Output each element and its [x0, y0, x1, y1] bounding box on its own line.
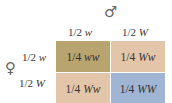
column-header-1: 1/2 w — [68, 26, 92, 38]
column-header-2: 1/2 W — [122, 26, 148, 38]
male-symbol: ♂ — [104, 3, 117, 21]
female-symbol: ♀ — [5, 59, 16, 77]
row-header-2: 1/2 W — [19, 77, 45, 89]
punnett-cell-Ww-top: 1/4 Ww — [111, 41, 165, 72]
punnett-cell-WW: 1/4 WW — [111, 73, 165, 103]
punnett-cell-Ww-bottom: 1/4 Ww — [56, 73, 110, 103]
punnett-cell-ww: 1/4 ww — [56, 41, 110, 72]
row-header-1: 1/2 w — [22, 51, 46, 63]
